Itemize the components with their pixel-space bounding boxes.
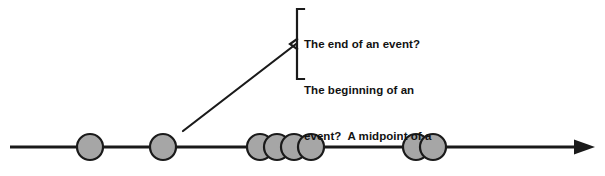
marker-group-single-event-1 [77, 134, 103, 160]
callout-line-1: The end of an event? [304, 37, 489, 52]
diagram-canvas [0, 0, 605, 176]
event-marker [77, 134, 103, 160]
callout-line-4: series? A one-off? [304, 174, 489, 176]
callout-line-2: The beginning of an [304, 83, 489, 98]
callout-line-3: event? A midpoint of a [304, 129, 489, 144]
annotation-leader-line [183, 44, 296, 131]
timeline-diagram: The end of an event? The beginning of an… [0, 0, 605, 176]
timeline-arrowhead-icon [574, 140, 595, 155]
event-marker [150, 134, 176, 160]
annotation-bracket [290, 9, 304, 79]
marker-group-single-event-2 [150, 134, 176, 160]
event-question-callout: The end of an event? The beginning of an… [304, 7, 489, 176]
bracket-outline [297, 9, 304, 79]
